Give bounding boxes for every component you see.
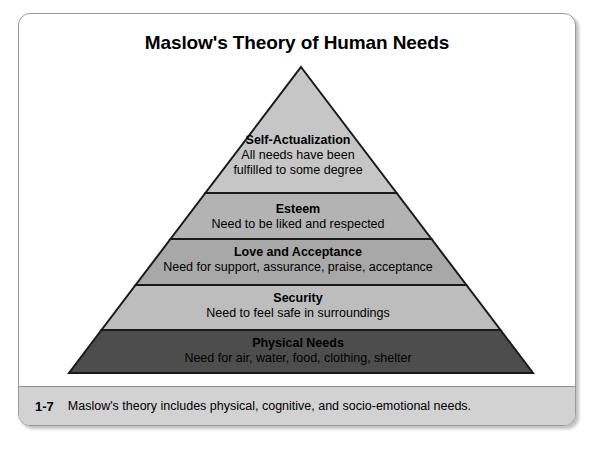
tier-title-security: Security [19, 291, 576, 306]
tier-desc-self-actualization-line2: fulfilled to some degree [19, 163, 576, 178]
tier-label-love-and-acceptance: Love and Acceptance Need for support, as… [19, 245, 576, 275]
tier-title-self-actualization: Self-Actualization [19, 133, 576, 148]
caption-band: 1-7 Maslow's theory includes physical, c… [19, 386, 575, 425]
tier-label-esteem: Esteem Need to be liked and respected [19, 202, 576, 232]
tier-title-esteem: Esteem [19, 202, 576, 217]
caption-text: Maslow's theory includes physical, cogni… [68, 399, 471, 413]
pyramid-svg [19, 14, 576, 386]
tier-title-physical-needs: Physical Needs [19, 336, 576, 351]
tier-desc-esteem: Need to be liked and respected [19, 217, 576, 232]
tier-desc-love-and-acceptance: Need for support, assurance, praise, acc… [19, 260, 576, 275]
figure-page: Maslow's Theory of Human Needs Self-Actu… [0, 0, 601, 451]
tier-label-physical-needs: Physical Needs Need for air, water, food… [19, 336, 576, 366]
caption-number: 1-7 [35, 399, 54, 414]
tier-desc-self-actualization-line1: All needs have been [19, 148, 576, 163]
tier-label-self-actualization: Self-Actualization All needs have been f… [19, 133, 576, 178]
tier-label-security: Security Need to feel safe in surroundin… [19, 291, 576, 321]
figure-card: Maslow's Theory of Human Needs Self-Actu… [18, 13, 576, 426]
maslow-pyramid: Self-Actualization All needs have been f… [19, 14, 576, 374]
tier-desc-security: Need to feel safe in surroundings [19, 306, 576, 321]
tier-desc-physical-needs: Need for air, water, food, clothing, she… [19, 351, 576, 366]
tier-title-love-and-acceptance: Love and Acceptance [19, 245, 576, 260]
